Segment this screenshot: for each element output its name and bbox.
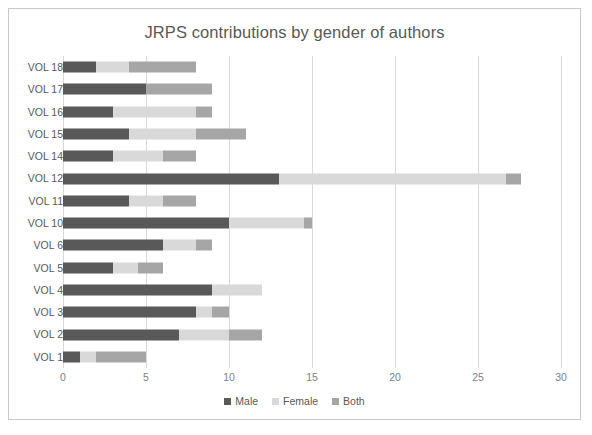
bar-segment-male[interactable] [63,307,196,318]
bar-segment-male[interactable] [63,240,163,251]
x-axis-tick-labels: 051015202530 [63,371,561,387]
y-axis-label-vol-17: VOL 17 [28,78,63,100]
bar-segment-female[interactable] [113,106,196,117]
y-axis-label-vol-5: VOL 5 [34,257,63,279]
x-tick-10: 10 [223,371,235,383]
x-tick-25: 25 [472,371,484,383]
legend-item-male[interactable]: Male [224,395,258,407]
bar-segment-male[interactable] [63,128,129,139]
bar-segment-both[interactable] [96,351,146,362]
y-axis-label-vol-10: VOL 10 [28,212,63,234]
legend-swatch-icon [272,398,279,405]
legend-label: Male [235,395,258,407]
bar-segment-both[interactable] [229,329,262,340]
x-tick-15: 15 [306,371,318,383]
y-axis-label-vol-2: VOL 2 [34,323,63,345]
bar-segment-both[interactable] [129,62,195,73]
x-tick-0: 0 [60,371,66,383]
bar-segment-both[interactable] [138,262,163,273]
gridline-30 [561,56,562,368]
bar-segment-both[interactable] [163,151,196,162]
bar-segment-male[interactable] [63,218,229,229]
legend-label: Both [343,395,365,407]
x-tick-5: 5 [143,371,149,383]
y-axis-category-labels: VOL 18VOL 17VOL 16VOL 15VOL 14VOL 12VOL … [17,56,63,368]
x-tick-20: 20 [389,371,401,383]
bar-segment-female[interactable] [179,329,229,340]
bar-row[interactable] [63,56,561,78]
chart-legend: MaleFemaleBoth [9,395,580,407]
chart-frame: JRPS contributions by gender of authors … [8,8,581,420]
bar-row[interactable] [63,145,561,167]
y-axis-label-vol-3: VOL 3 [34,301,63,323]
y-axis-label-vol-16: VOL 16 [28,101,63,123]
bar-segment-both[interactable] [146,84,212,95]
legend-swatch-icon [332,398,339,405]
y-axis-label-vol-4: VOL 4 [34,279,63,301]
bar-row[interactable] [63,101,561,123]
bar-segment-female[interactable] [129,128,195,139]
bar-segment-female[interactable] [129,195,162,206]
y-axis-label-vol-12: VOL 12 [28,167,63,189]
bar-segment-male[interactable] [63,106,113,117]
bar-segment-both[interactable] [196,240,213,251]
bar-segment-male[interactable] [63,84,146,95]
bar-segment-male[interactable] [63,195,129,206]
bar-segment-male[interactable] [63,62,96,73]
bar-segment-male[interactable] [63,351,80,362]
bar-segment-male[interactable] [63,329,179,340]
y-axis-label-vol-1: VOL 1 [34,346,63,368]
bar-segment-both[interactable] [163,195,196,206]
bar-row[interactable] [63,78,561,100]
bar-segment-male[interactable] [63,284,212,295]
legend-item-female[interactable]: Female [272,395,318,407]
legend-swatch-icon [224,398,231,405]
bar-segment-both[interactable] [212,307,229,318]
legend-label: Female [283,395,318,407]
bar-segment-female[interactable] [229,218,304,229]
x-tick-30: 30 [555,371,567,383]
bar-row[interactable] [63,323,561,345]
bar-segment-male[interactable] [63,151,113,162]
bar-row[interactable] [63,167,561,189]
bar-row[interactable] [63,257,561,279]
bar-segment-both[interactable] [506,173,521,184]
bar-segment-male[interactable] [63,173,279,184]
bar-segment-female[interactable] [96,62,129,73]
bar-segment-both[interactable] [196,128,246,139]
bar-segment-female[interactable] [196,307,213,318]
bar-row[interactable] [63,301,561,323]
chart-title: JRPS contributions by gender of authors [9,23,580,42]
bar-segment-both[interactable] [304,218,312,229]
bar-row[interactable] [63,123,561,145]
bar-row[interactable] [63,346,561,368]
bar-segment-female[interactable] [113,262,138,273]
bar-segment-female[interactable] [279,173,506,184]
y-axis-label-vol-6: VOL 6 [34,234,63,256]
bar-segment-female[interactable] [113,151,163,162]
bar-series-group [63,56,561,368]
bar-row[interactable] [63,234,561,256]
plot-area [63,56,561,368]
bar-segment-female[interactable] [163,240,196,251]
bar-row[interactable] [63,279,561,301]
y-axis-label-vol-14: VOL 14 [28,145,63,167]
y-axis-label-vol-11: VOL 11 [29,190,63,212]
y-axis-label-vol-18: VOL 18 [28,56,63,78]
bar-row[interactable] [63,212,561,234]
bar-segment-female[interactable] [80,351,97,362]
bar-segment-male[interactable] [63,262,113,273]
bar-segment-female[interactable] [212,284,262,295]
y-axis-label-vol-15: VOL 15 [28,123,63,145]
legend-item-both[interactable]: Both [332,395,365,407]
bar-row[interactable] [63,190,561,212]
bar-segment-both[interactable] [196,106,213,117]
